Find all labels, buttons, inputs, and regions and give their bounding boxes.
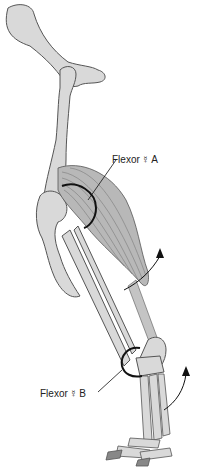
flexor-b-text: Flexor — [40, 388, 68, 399]
limb-illustration — [0, 0, 204, 468]
lower-muscle — [128, 280, 158, 344]
flexor-a-text: Flexor — [112, 154, 140, 165]
flexor-a-suffix: A — [151, 154, 158, 165]
scapula-bone — [6, 5, 105, 87]
arrow-upper-head — [156, 248, 164, 258]
tarsal-bones — [136, 356, 164, 376]
flexor-b-label: Flexor☿B — [40, 388, 86, 400]
diagram-canvas: Flexor☿A Flexor☿B — [0, 0, 204, 468]
flexor-symbol-icon: ☿ — [70, 388, 78, 399]
toes — [106, 438, 172, 466]
flexor-b-leader — [98, 370, 122, 392]
flexor-a-label: Flexor☿A — [112, 154, 158, 166]
flexor-b-suffix: B — [79, 388, 86, 399]
arrow-lower-head — [182, 366, 190, 376]
flexor-symbol-icon: ☿ — [142, 154, 150, 165]
